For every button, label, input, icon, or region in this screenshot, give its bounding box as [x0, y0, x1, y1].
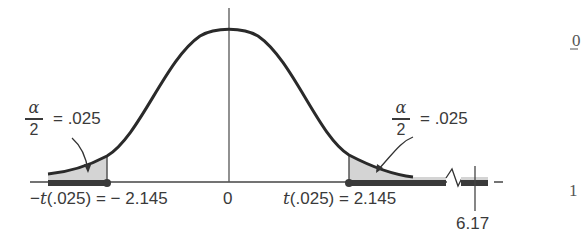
right-rejection-bar: [349, 180, 446, 186]
observed-value-label: 6.17: [456, 215, 489, 232]
left-rejection-bar: [48, 180, 107, 186]
center-label: 0: [223, 190, 232, 207]
left-critical-dot: [103, 179, 111, 187]
left-alpha-fraction: α 2: [25, 100, 43, 138]
density-curve: [48, 29, 413, 177]
alpha-symbol: α: [394, 100, 409, 118]
right-tail-shade: [349, 155, 446, 182]
right-arrow-icon: [377, 137, 413, 171]
axis-break-icon: [446, 169, 462, 186]
alpha-symbol: α: [27, 100, 42, 118]
margin-text-bottom: 1: [569, 182, 578, 199]
left-critical-label: −t(.025) = − 2.145: [30, 190, 168, 207]
right-alpha-fraction: α 2: [392, 100, 410, 138]
right-alpha-value: = .025: [420, 110, 468, 127]
right-critical-dot: [345, 179, 353, 187]
left-alpha-value: = .025: [53, 110, 101, 127]
margin-text-top: 0: [572, 32, 581, 49]
right-critical-label: t(.025) = 2.145: [283, 190, 396, 207]
